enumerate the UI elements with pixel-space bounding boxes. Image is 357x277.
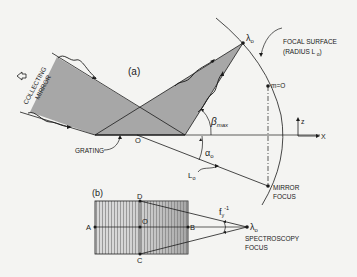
spectroscopy-focus-point [245, 225, 249, 229]
spectroscopy-focus-label-1: SPECTROSCOPY [245, 235, 300, 242]
grating-label: GRATING [75, 147, 104, 154]
focal-surface-arc [216, 18, 283, 205]
point-C-label: C [137, 256, 143, 265]
part-b-label: (b) [92, 188, 103, 198]
beta-label: βmax [210, 116, 229, 128]
lambda-label: λo [246, 33, 255, 44]
focal-surface-pointer [261, 28, 282, 55]
axis-z-label: z [301, 118, 305, 125]
part-b: (b) D C A O B fy-1 λo SPECTROSCOPY FOCUS [86, 188, 300, 265]
point-A-label: A [86, 223, 91, 232]
origin-label: O [135, 136, 141, 145]
lambda-point [241, 41, 245, 45]
spectroscopy-focus-label-2: FOCUS [245, 244, 268, 251]
alpha-label: αo [205, 148, 214, 159]
grating-spectrometer-diagram: (a) COLLECTING MIRROR λo FOCAL SURFACE (… [0, 0, 357, 277]
mirror-focus-label-1: MIRROR [273, 184, 300, 191]
part-a-label: (a) [128, 66, 140, 77]
mirror-focus-point [266, 184, 270, 188]
L-label: Lo [188, 171, 196, 181]
point-B-label: B [190, 223, 195, 232]
m-zero-label: m=O [271, 82, 285, 89]
f-label: fy-1 [219, 205, 229, 218]
collecting-mirror-arrow-icon [17, 72, 26, 80]
point-O-label: O [142, 217, 148, 226]
spectroscopy-lambda-label: λo [250, 222, 259, 233]
point-D-label: D [137, 192, 143, 201]
focal-surface-label: FOCAL SURFACE [283, 38, 338, 45]
m-zero-point [266, 84, 270, 88]
beta-arc [202, 110, 211, 135]
part-a: (a) COLLECTING MIRROR λo FOCAL SURFACE (… [17, 18, 338, 205]
grating-pointer [104, 137, 120, 150]
mirror-focus-label-2: FOCUS [273, 193, 296, 200]
axis-x-label: X [321, 133, 326, 140]
focal-surface-radius-label: (RADIUS L o) [283, 48, 322, 57]
